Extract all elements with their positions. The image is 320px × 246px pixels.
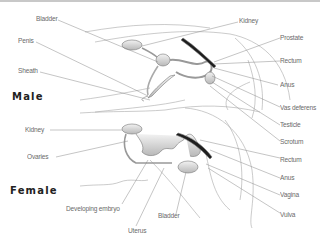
male-body-outline [80,25,290,118]
label-female-developing-embryo: Developing embryo [66,204,120,214]
label-female-kidney: Kidney [25,125,44,135]
male-bladder-shape [156,54,170,66]
male-leader-lines [36,20,280,141]
section-label-male: Male [12,91,44,102]
label-female-rectum: Rectum [280,155,302,165]
label-male-prostate: Prostate [280,33,303,43]
label-male-anus: Anus [280,80,294,90]
anatomy-illustration [0,0,320,246]
male-organs [122,38,216,101]
label-male-bladder: Bladder [36,14,57,24]
label-male-kidney: Kidney [239,16,258,26]
label-male-sheath: Sheath [18,66,38,76]
female-organs [122,124,212,173]
label-female-bladder: Bladder [158,211,179,221]
label-female-uterus: Uterus [128,226,146,236]
label-female-vulva: Vulva [280,210,295,220]
label-male-vas-deferens: Vas deferens [280,103,316,113]
male-kidney-shape [122,40,142,50]
label-female-anus: Anus [280,173,294,183]
female-kidney-shape [122,124,142,134]
label-female-vagina: Vagina [280,190,299,200]
label-male-penis: Penis [18,36,34,46]
label-male-rectum: Rectum [280,56,302,66]
label-male-testicle: Testicle [280,120,301,130]
label-male-scrotum: Scrotum [280,137,303,147]
label-female-ovaries: Ovaries [27,152,48,162]
section-label-female: Female [10,185,58,196]
male-testicle-shape [205,72,215,84]
female-bladder-shape [178,161,198,173]
